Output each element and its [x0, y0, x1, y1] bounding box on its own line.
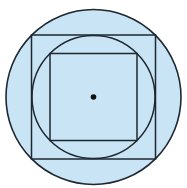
nested-shapes-diagram: [0, 0, 187, 188]
center-point: [91, 94, 97, 100]
diagram-canvas: [0, 0, 187, 188]
